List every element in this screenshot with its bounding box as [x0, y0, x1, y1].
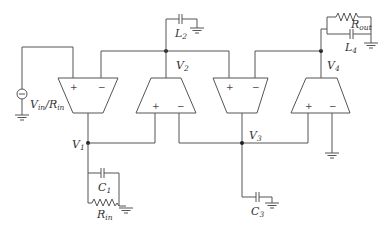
node-v1-label: V1	[72, 138, 85, 152]
svg-text:L2: L2	[174, 27, 187, 41]
svg-text:Rin: Rin	[96, 208, 113, 222]
amplifier-2: + −	[88, 51, 242, 143]
ground-icon	[15, 115, 29, 120]
svg-text:−: −	[329, 101, 337, 111]
svg-text:−: −	[252, 82, 260, 92]
c3-capacitor: C3	[242, 192, 279, 219]
svg-text:−: −	[177, 101, 185, 111]
svg-text:Rout: Rout	[350, 18, 373, 32]
svg-text:+: +	[70, 82, 78, 92]
ground-icon	[364, 43, 378, 48]
svg-text:+: +	[226, 82, 234, 92]
node-v4-label: V4	[327, 59, 340, 73]
svg-text:C3: C3	[251, 205, 264, 219]
node-v3-dot	[240, 141, 244, 145]
svg-text:+: +	[152, 101, 160, 111]
ground-icon	[325, 153, 339, 158]
circuit-diagram: Vin/Rin + − L2 V2 + − + −	[0, 0, 391, 236]
svg-text:+: +	[305, 101, 313, 111]
amplifier-4: + −	[291, 51, 350, 158]
svg-text:C1: C1	[98, 181, 111, 195]
svg-text:L4: L4	[344, 41, 357, 55]
node-v3-label: V3	[249, 129, 262, 143]
ground-icon	[119, 206, 133, 213]
ground-icon	[265, 203, 279, 208]
node-v2-label: V2	[176, 59, 189, 73]
l2-capacitor: L2	[166, 14, 204, 51]
c1-rin-network: C1 Rin	[88, 143, 133, 222]
ground-icon	[190, 28, 204, 33]
svg-text:−: −	[98, 82, 106, 92]
rout-l4-network: Rout L4	[321, 13, 378, 55]
amplifier-1: + −	[58, 51, 118, 143]
source-label: Vin/Rin	[30, 98, 65, 112]
